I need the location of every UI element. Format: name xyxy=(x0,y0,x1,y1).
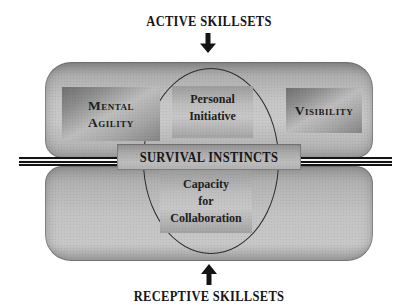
personal-initiative-box: Personal Initiative xyxy=(172,86,253,138)
arrow-up-icon xyxy=(201,264,217,285)
active-skillsets-title: ACTIVE SKILLSETS xyxy=(146,13,271,31)
capacity-line1: Capacity xyxy=(183,176,229,193)
capacity-line2: for xyxy=(198,193,213,210)
personal-initiative-line2: Initiative xyxy=(189,108,236,125)
visibility-box: Visibility xyxy=(286,88,362,133)
mental-agility-line2: Agility xyxy=(88,114,134,131)
survival-instincts-label: SURVIVAL INSTINCTS xyxy=(140,148,278,165)
survival-instincts-bar: SURVIVAL INSTINCTS xyxy=(117,144,301,170)
capacity-line3: Collaboration xyxy=(170,210,241,227)
personal-initiative-line1: Personal xyxy=(190,91,235,108)
receptive-skillsets-title: RECEPTIVE SKILLSETS xyxy=(134,288,285,306)
mental-agility-box: Mental Agility xyxy=(62,87,160,141)
capacity-for-collaboration-box: Capacity for Collaboration xyxy=(160,170,252,233)
mental-agility-line1: Mental xyxy=(88,97,134,114)
arrow-down-icon xyxy=(200,33,216,53)
visibility-label: Visibility xyxy=(295,102,353,119)
skillsets-diagram: ACTIVE SKILLSETS Mental Agility Personal… xyxy=(0,0,406,306)
